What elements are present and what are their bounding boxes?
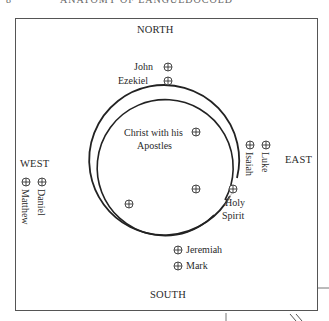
- marker-john-icon: [164, 63, 172, 71]
- marker-isaiah-icon: [246, 141, 254, 149]
- marker-inner-left-icon: [125, 200, 133, 208]
- label-holy: Holy: [225, 198, 245, 208]
- marker-mark-icon: [174, 262, 182, 270]
- outer-ring: [89, 85, 239, 235]
- marker-luke-icon: [262, 141, 270, 149]
- label-luke: Luke: [260, 152, 270, 173]
- inner-ring: [97, 100, 233, 236]
- label-apostles: Apostles: [137, 141, 172, 151]
- marker-holy-spirit-icon: [229, 185, 237, 193]
- marker-ezekiel-icon: [164, 77, 172, 85]
- label-east: EAST: [285, 155, 312, 166]
- marker-daniel-icon: [38, 178, 46, 186]
- label-matthew: Matthew: [20, 189, 30, 225]
- label-daniel: Daniel: [36, 189, 46, 216]
- label-mark: Mark: [186, 261, 208, 271]
- marker-matthew-icon: [22, 178, 30, 186]
- label-isaiah: Isaiah: [244, 152, 254, 176]
- label-christ: Christ with his: [124, 128, 183, 138]
- marker-apostles-icon: [192, 128, 200, 136]
- label-john: John: [134, 62, 153, 72]
- label-ezekiel: Ezekiel: [118, 76, 148, 86]
- marker-jeremiah-icon: [174, 246, 182, 254]
- label-north: NORTH: [137, 25, 174, 36]
- label-spirit: Spirit: [222, 211, 244, 221]
- marker-inner-right-icon: [192, 185, 200, 193]
- label-west: WEST: [20, 159, 49, 170]
- label-south: SOUTH: [150, 290, 186, 301]
- label-jeremiah: Jeremiah: [186, 245, 222, 255]
